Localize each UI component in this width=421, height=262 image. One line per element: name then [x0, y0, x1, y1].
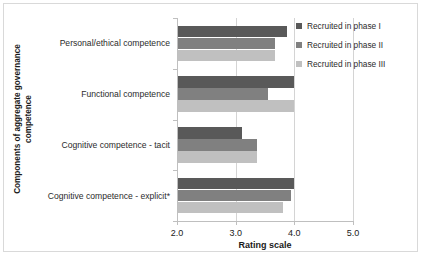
category-labels: Personal/ethical competenceFunctional co…	[40, 18, 174, 221]
y-axis-title: Components of aggregate governance compe…	[6, 14, 40, 224]
legend-label: Recruited in phase III	[307, 59, 385, 69]
bar	[178, 190, 291, 202]
legend-label: Recruited in phase I	[307, 21, 381, 31]
x-axis-tick	[294, 221, 295, 225]
legend-swatch-icon	[296, 61, 302, 67]
legend-item[interactable]: Recruited in phase II	[296, 35, 416, 54]
bar-chart-figure: Components of aggregate governance compe…	[0, 0, 421, 262]
y-axis-tick	[173, 120, 177, 121]
x-axis-line	[177, 221, 353, 222]
x-axis-tick-label: 5.0	[347, 228, 360, 238]
chart-legend: Recruited in phase IRecruited in phase I…	[296, 16, 416, 73]
category-label: Personal/ethical competence	[38, 38, 170, 48]
x-axis-tick-label: 2.0	[171, 228, 184, 238]
x-axis-tick	[353, 221, 354, 225]
y-axis-tick	[173, 221, 177, 222]
y-axis-tick	[173, 170, 177, 171]
category-label: Cognitive competence - explicit*	[38, 191, 170, 201]
legend-label: Recruited in phase II	[307, 40, 383, 50]
x-axis-tick-label: 4.0	[288, 228, 301, 238]
x-axis-tick	[236, 221, 237, 225]
bar	[178, 202, 283, 214]
legend-swatch-icon	[296, 23, 302, 29]
bar	[178, 178, 294, 190]
legend-item[interactable]: Recruited in phase III	[296, 54, 416, 73]
bar	[178, 76, 294, 88]
bar	[178, 127, 242, 139]
y-axis-title-line-2: competence	[23, 14, 34, 224]
bar	[178, 26, 287, 38]
bar	[178, 139, 257, 151]
category-label: Cognitive competence - tacit	[38, 140, 170, 150]
legend-swatch-icon	[296, 42, 302, 48]
y-axis-tick	[173, 18, 177, 19]
x-axis-tick	[177, 221, 178, 225]
bar	[178, 38, 275, 50]
bar	[178, 50, 275, 62]
y-axis-title-line-1: Components of aggregate governance	[12, 14, 23, 224]
bar	[178, 151, 257, 163]
bar	[178, 88, 268, 100]
x-axis-title: Rating scale	[177, 240, 353, 250]
y-axis-tick	[173, 69, 177, 70]
legend-item[interactable]: Recruited in phase I	[296, 16, 416, 35]
x-axis-tick-label: 3.0	[229, 228, 242, 238]
bar	[178, 100, 294, 112]
category-label: Functional competence	[38, 89, 170, 99]
